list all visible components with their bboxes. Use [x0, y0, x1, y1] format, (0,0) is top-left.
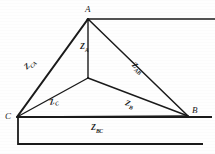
impedance-label-zbc: ZBC — [91, 124, 103, 134]
za-subscript: A — [85, 47, 88, 53]
vertex-label-A: A — [85, 5, 91, 14]
circuit-line-art — [0, 0, 215, 154]
node-N-dot — [87, 77, 89, 79]
wye-branches — [17, 20, 188, 117]
branch-NB — [88, 78, 188, 116]
vertex-label-C: C — [5, 112, 11, 121]
zbc-subscript: BC — [96, 128, 103, 134]
external-conductors — [17, 19, 215, 145]
node-A-dot — [87, 18, 90, 21]
delta-wye-figure: A B C ZCA ZAB ZBC ZA ZB ZC — [0, 0, 215, 154]
impedance-label-za: ZA — [80, 43, 88, 53]
vertex-label-B: B — [192, 106, 198, 115]
